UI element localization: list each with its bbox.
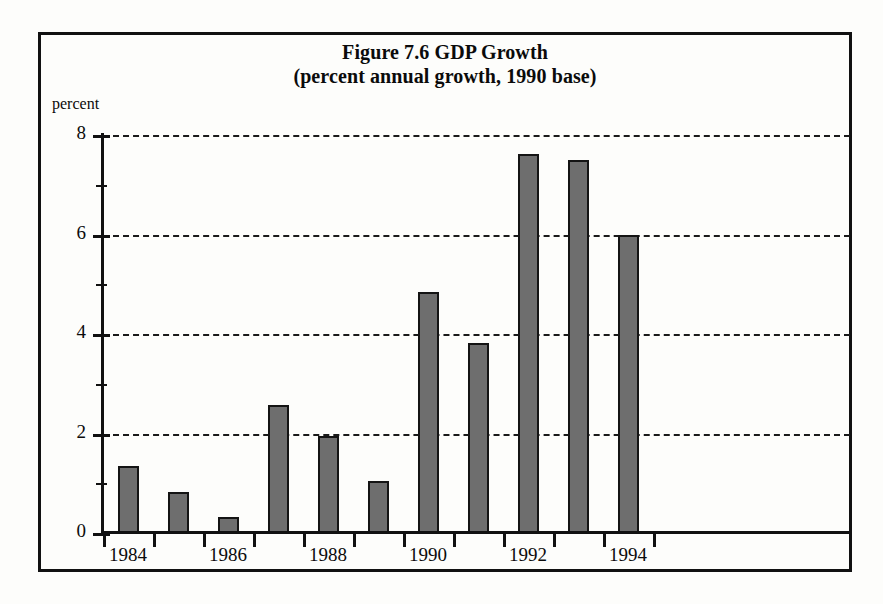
x-tick-label-1990: 1990 bbox=[388, 544, 468, 566]
y-tick-label-0: 0 bbox=[46, 520, 86, 542]
x-tick-label-1992: 1992 bbox=[488, 544, 568, 566]
gridline-6 bbox=[103, 235, 850, 237]
bar-1992 bbox=[518, 154, 539, 533]
figure-page: Figure 7.6 GDP Growth (percent annual gr… bbox=[0, 0, 883, 604]
bar-1987 bbox=[268, 405, 289, 533]
x-tick-label-1984: 1984 bbox=[88, 544, 168, 566]
bar-1984 bbox=[118, 466, 139, 533]
bar-1985 bbox=[168, 492, 189, 533]
x-tick-label-1994: 1994 bbox=[588, 544, 668, 566]
bar-1988 bbox=[318, 436, 339, 533]
plot-area: 02468 198419861988199019921994 bbox=[0, 0, 883, 604]
y-tick-label-8: 8 bbox=[46, 122, 86, 144]
bar-1989 bbox=[368, 481, 389, 533]
y-tick-label-2: 2 bbox=[46, 421, 86, 443]
y-tick-label-4: 4 bbox=[46, 321, 86, 343]
gridline-4 bbox=[103, 334, 850, 336]
x-tick-label-1986: 1986 bbox=[188, 544, 268, 566]
y-axis-line bbox=[101, 133, 104, 535]
x-axis-line bbox=[101, 531, 852, 534]
bar-1993 bbox=[568, 160, 589, 533]
bar-1991 bbox=[468, 343, 489, 533]
gridline-8 bbox=[103, 135, 850, 137]
y-tick-label-6: 6 bbox=[46, 222, 86, 244]
bar-1990 bbox=[418, 292, 439, 533]
bar-1994 bbox=[618, 235, 639, 534]
x-tick-label-1988: 1988 bbox=[288, 544, 368, 566]
